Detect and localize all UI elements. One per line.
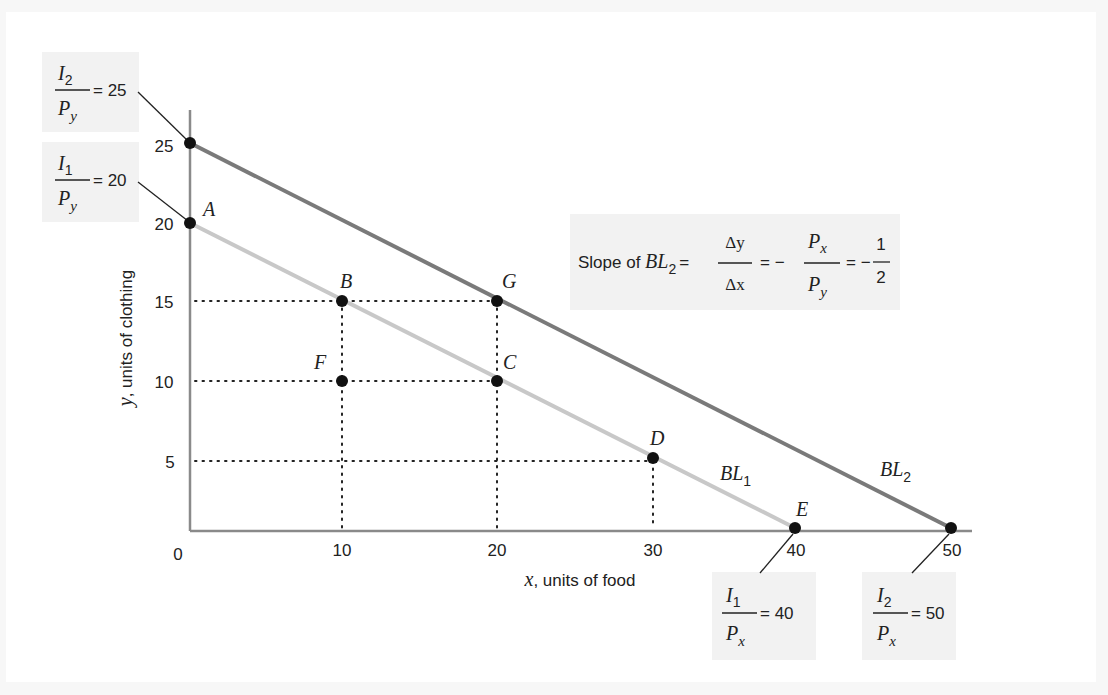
y-tick-10: 10 — [155, 373, 174, 392]
svg-text:Δy: Δy — [725, 233, 745, 252]
point-label-e: E — [795, 498, 808, 520]
svg-text:= 25: = 25 — [93, 81, 127, 100]
x-tick-40: 40 — [787, 541, 806, 560]
leader-lines — [138, 92, 949, 573]
x-tick-50: 50 — [943, 541, 962, 560]
bl2-label: BL2 — [880, 458, 911, 485]
x-axis-title: x, units of food — [524, 568, 636, 590]
x-tick-10: 10 — [333, 541, 352, 560]
svg-text:= 40: = 40 — [760, 604, 794, 623]
point-label-b: B — [340, 270, 352, 292]
x-tick-20: 20 — [488, 541, 507, 560]
svg-text:2: 2 — [876, 268, 885, 287]
svg-text:= −: = − — [846, 253, 871, 272]
y-tick-15: 15 — [155, 293, 174, 312]
point-label-d: D — [649, 427, 665, 449]
svg-text:1: 1 — [876, 235, 885, 254]
budget-line-chart: 25 20 15 10 5 0 10 20 30 40 50 x, units … — [0, 0, 1108, 695]
svg-text:Δx: Δx — [725, 275, 745, 294]
x-tick-30: 30 — [644, 541, 663, 560]
svg-text:= −: = − — [760, 253, 785, 272]
svg-text:= 20: = 20 — [93, 171, 127, 190]
x-tick-0: 0 — [173, 545, 182, 564]
y-axis-title: y, units of clothing — [114, 270, 137, 408]
y-tick-5: 5 — [165, 453, 174, 472]
dotted-guides — [195, 301, 653, 528]
point-label-g: G — [502, 270, 517, 292]
point-label-a: A — [201, 198, 216, 220]
svg-text:= 50: = 50 — [911, 604, 945, 623]
bl1-label: BL1 — [720, 462, 751, 489]
point-label-c: C — [503, 351, 517, 373]
bl2-line — [190, 143, 951, 528]
y-tick-25: 25 — [155, 137, 174, 156]
point-label-f: F — [313, 351, 327, 373]
y-tick-20: 20 — [155, 215, 174, 234]
